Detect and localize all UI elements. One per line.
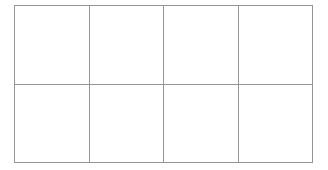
table-cell (15, 84, 90, 163)
table-cell (164, 6, 239, 85)
table-cell (15, 6, 90, 85)
table-cell (89, 84, 164, 163)
table-cell (238, 6, 313, 85)
table-body (15, 6, 313, 163)
empty-grid-table (14, 5, 313, 163)
table-cell (238, 84, 313, 163)
table-row (15, 6, 313, 85)
table-cell (89, 6, 164, 85)
document-page (0, 0, 328, 170)
table-cell (164, 84, 239, 163)
table-row (15, 84, 313, 163)
